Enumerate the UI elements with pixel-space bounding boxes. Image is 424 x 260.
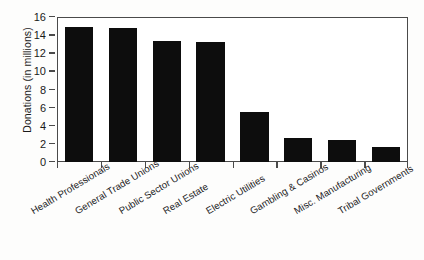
- x-axis-label: Misc. Manufacturing: [292, 162, 373, 217]
- x-axis-labels: Health ProfessionalsGeneral Trade Unions…: [0, 0, 424, 260]
- x-axis-label: Gambling & Casinos: [248, 161, 331, 217]
- bar-chart-figure: Donations (in millions) 0246810121416 He…: [0, 0, 424, 260]
- x-axis-label: Health Professionals: [29, 161, 112, 218]
- x-axis-label: Tribal Governments: [336, 163, 416, 217]
